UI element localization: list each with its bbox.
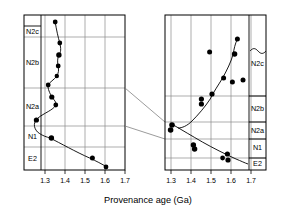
unconformity-symbol bbox=[250, 49, 266, 54]
data-point bbox=[225, 151, 230, 156]
x-axis-title: Provenance age (Ga) bbox=[104, 195, 192, 205]
data-point bbox=[199, 101, 204, 106]
data-point bbox=[56, 52, 61, 57]
left-panel: N2c N2b N2a N1 E2 bbox=[24, 15, 130, 184]
data-point bbox=[232, 51, 237, 56]
right-tick-label: 1.3 bbox=[166, 177, 176, 184]
data-point bbox=[241, 78, 246, 83]
right-panel-data-points bbox=[168, 37, 246, 163]
data-point bbox=[34, 117, 39, 122]
left-unit-label-n2a: N2a bbox=[26, 102, 39, 111]
left-unit-label-n1: N1 bbox=[28, 132, 37, 141]
right-unit-label-n1: N1 bbox=[253, 143, 262, 152]
data-point bbox=[55, 74, 59, 78]
right-unit-label-n2c: N2c bbox=[251, 59, 264, 68]
data-point bbox=[221, 76, 226, 81]
left-panel-x-axis: 1.3 1.4 1.5 1.6 1.7 bbox=[40, 170, 130, 184]
data-point bbox=[104, 165, 109, 170]
left-tick-label: 1.3 bbox=[40, 177, 50, 184]
left-tick-label: 1.4 bbox=[60, 177, 70, 184]
data-point bbox=[169, 122, 175, 128]
data-point bbox=[53, 20, 58, 25]
right-unit-label-e2: E2 bbox=[253, 159, 262, 168]
data-point bbox=[220, 156, 225, 161]
data-point bbox=[49, 135, 54, 140]
left-panel-gridlines bbox=[24, 37, 125, 147]
data-point bbox=[235, 37, 240, 42]
data-point bbox=[49, 94, 54, 99]
right-unit-label-n2a: N2a bbox=[251, 126, 264, 135]
correlation-lines bbox=[125, 88, 165, 139]
right-panel-x-axis: 1.3 1.4 1.5 1.6 1.7 bbox=[166, 170, 256, 184]
data-point bbox=[225, 157, 230, 162]
data-point bbox=[209, 91, 214, 96]
data-point bbox=[207, 50, 212, 55]
right-tick-label: 1.6 bbox=[226, 177, 236, 184]
data-point bbox=[53, 103, 58, 108]
data-point bbox=[57, 41, 62, 46]
left-tick-label: 1.7 bbox=[120, 177, 130, 184]
left-tick-label: 1.6 bbox=[100, 177, 110, 184]
left-unit-label-n2c: N2c bbox=[26, 27, 39, 36]
right-panel: N2c N2b N2a N1 E2 bbox=[165, 15, 266, 184]
provenance-age-figure: N2c N2b N2a N1 E2 bbox=[0, 0, 290, 219]
left-tick-label: 1.5 bbox=[80, 177, 90, 184]
data-point bbox=[46, 83, 51, 88]
right-tick-label: 1.5 bbox=[206, 177, 216, 184]
data-point bbox=[168, 127, 174, 133]
data-point bbox=[230, 80, 235, 85]
right-unit-label-n2b: N2b bbox=[251, 104, 264, 113]
data-point bbox=[56, 64, 61, 69]
chart-svg: N2c N2b N2a N1 E2 bbox=[0, 0, 290, 219]
data-point bbox=[90, 156, 95, 161]
right-tick-label: 1.4 bbox=[186, 177, 196, 184]
data-point bbox=[192, 146, 197, 151]
data-point bbox=[199, 96, 204, 101]
left-unit-label-e2: E2 bbox=[28, 154, 37, 163]
left-unit-label-n2b: N2b bbox=[26, 58, 39, 67]
right-tick-label: 1.7 bbox=[246, 177, 256, 184]
